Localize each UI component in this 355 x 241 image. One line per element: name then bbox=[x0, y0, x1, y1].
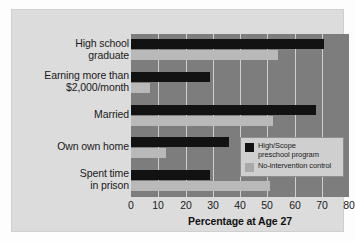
bar bbox=[131, 50, 278, 60]
category-axis-labels: High schoolgraduateEarning more than$2,0… bbox=[11, 34, 129, 197]
legend-swatch bbox=[245, 143, 254, 152]
legend-label-line: preschool program bbox=[258, 151, 319, 160]
chart-legend: High/Scopepreschool programNo-interventi… bbox=[240, 137, 344, 177]
bar bbox=[131, 170, 210, 180]
bar bbox=[131, 105, 316, 115]
legend-item[interactable]: High/Scopepreschool program bbox=[245, 142, 340, 159]
category-label-line: Spent time bbox=[13, 168, 129, 180]
category-label-line: in prison bbox=[13, 180, 129, 192]
figure: High schoolgraduateEarning more than$2,0… bbox=[0, 0, 355, 241]
bar bbox=[131, 116, 273, 126]
x-axis-ticks: 01020304050607080 bbox=[131, 199, 349, 213]
x-tick-label: 10 bbox=[152, 199, 164, 211]
bar bbox=[131, 148, 166, 158]
chart-panel: High schoolgraduateEarning more than$2,0… bbox=[11, 9, 344, 232]
x-tick-label: 70 bbox=[316, 199, 328, 211]
category-label: High schoolgraduate bbox=[13, 38, 129, 61]
x-tick-label: 30 bbox=[207, 199, 219, 211]
bar bbox=[131, 137, 229, 147]
category-label: Earning more than$2,000/month bbox=[13, 70, 129, 93]
legend-label-line: No-intervention control bbox=[258, 162, 331, 171]
bar bbox=[131, 39, 324, 49]
x-tick-label: 80 bbox=[343, 199, 355, 211]
category-label: Married bbox=[13, 109, 129, 121]
x-tick-label: 50 bbox=[261, 199, 273, 211]
x-tick-label: 60 bbox=[289, 199, 301, 211]
legend-label: High/Scopepreschool program bbox=[258, 142, 319, 159]
x-tick-label: 0 bbox=[128, 199, 134, 211]
category-label: Spent timein prison bbox=[13, 168, 129, 191]
category-label-line: Own own home bbox=[13, 141, 129, 153]
category-label-line: $2,000/month bbox=[13, 82, 129, 94]
category-label-line: Earning more than bbox=[13, 70, 129, 82]
bar bbox=[131, 181, 270, 191]
legend-label: No-intervention control bbox=[258, 162, 331, 171]
category-label-line: High school bbox=[13, 38, 129, 50]
x-tick-label: 40 bbox=[234, 199, 246, 211]
legend-item[interactable]: No-intervention control bbox=[245, 162, 340, 172]
x-tick-label: 20 bbox=[180, 199, 192, 211]
category-label-line: graduate bbox=[13, 50, 129, 62]
category-label-line: Married bbox=[13, 109, 129, 121]
x-axis-title: Percentage at Age 27 bbox=[131, 215, 349, 227]
bar bbox=[131, 72, 210, 82]
category-label: Own own home bbox=[13, 141, 129, 153]
legend-swatch bbox=[245, 163, 254, 172]
bar bbox=[131, 83, 150, 93]
